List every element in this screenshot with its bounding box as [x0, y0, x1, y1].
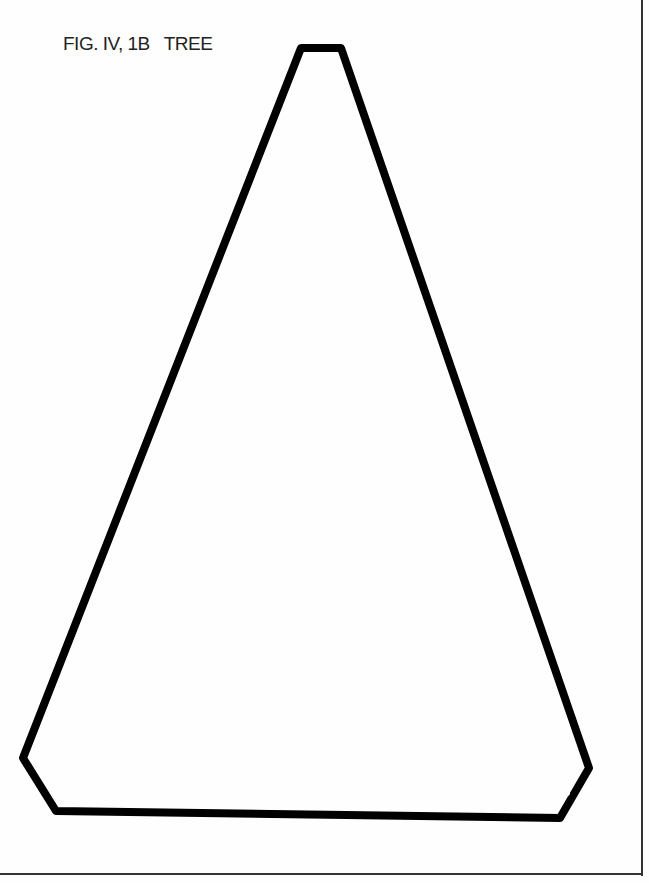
tree-outline-shape	[0, 0, 649, 883]
page-border-bottom	[0, 873, 643, 875]
document-page: FIG. IV, 1B TREE	[0, 0, 649, 883]
notch-mark	[564, 790, 570, 796]
page-border-right	[641, 0, 643, 876]
